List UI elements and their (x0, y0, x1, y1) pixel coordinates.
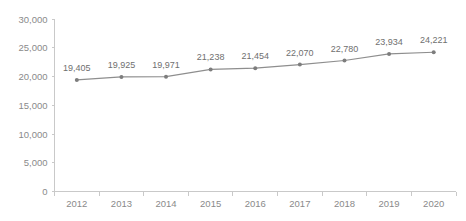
x-tick-label: 2015 (200, 198, 221, 209)
data-point-marker (119, 75, 123, 79)
y-tick-label: 10,000 (18, 129, 47, 140)
line-chart: 05,00010,00015,00020,00025,00030,000 201… (0, 0, 466, 221)
data-point-label: 19,405 (63, 63, 91, 73)
data-point-marker (298, 63, 302, 67)
y-tick-label: 15,000 (18, 100, 47, 111)
y-tick-label: 30,000 (18, 14, 47, 25)
x-tick-label: 2012 (66, 198, 87, 209)
data-point-label: 19,971 (152, 60, 180, 70)
data-point-label: 19,925 (108, 60, 136, 70)
x-tick-label: 2016 (245, 198, 266, 209)
y-tick-labels: 05,00010,00015,00020,00025,00030,000 (18, 14, 47, 198)
x-tick-label: 2020 (423, 198, 444, 209)
data-point-label: 24,221 (420, 35, 448, 45)
x-tick-label: 2019 (379, 198, 400, 209)
data-point-label: 22,070 (286, 48, 314, 58)
x-tick-label: 2018 (334, 198, 355, 209)
y-tick-label: 20,000 (18, 71, 47, 82)
data-point-marker (164, 75, 168, 79)
data-point-label: 22,780 (331, 44, 359, 54)
x-tick-label: 2013 (111, 198, 132, 209)
data-point-label: 21,238 (197, 52, 225, 62)
data-point-marker (75, 78, 79, 82)
data-point-marker (387, 52, 391, 56)
data-point-label: 23,934 (375, 37, 403, 47)
x-tick-labels: 201220132014201520162017201820192020 (66, 198, 444, 209)
y-tick-label: 5,000 (24, 157, 48, 168)
y-tick-label: 25,000 (18, 42, 47, 53)
data-point-marker (253, 66, 257, 70)
data-point-marker (342, 59, 346, 63)
x-tick-marks (55, 192, 457, 196)
data-point-label: 21,454 (241, 51, 269, 61)
x-tick-label: 2017 (289, 198, 310, 209)
y-tick-label: 0 (42, 186, 47, 197)
x-tick-label: 2014 (155, 198, 176, 209)
data-point-marker (209, 67, 213, 71)
chart-canvas: 05,00010,00015,00020,00025,00030,000 201… (0, 0, 466, 221)
data-point-marker (432, 50, 436, 54)
